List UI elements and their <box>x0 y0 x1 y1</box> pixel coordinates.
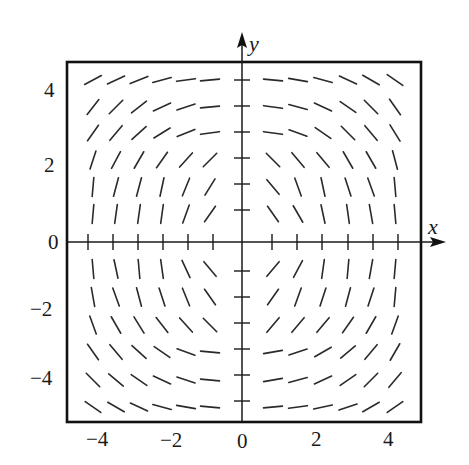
slope-segment-bottom-right <box>264 406 283 408</box>
slope-segment-top-right <box>317 153 329 168</box>
x-tick-label: 2 <box>311 427 322 451</box>
slope-segment-bottom-right <box>340 375 356 386</box>
slope-segment-bottom-right <box>365 345 377 360</box>
y-tick-label: −2 <box>30 297 52 321</box>
slope-segment-bottom-right <box>268 289 279 305</box>
slope-segment-top-right <box>267 180 279 195</box>
slope-segment-top-right <box>394 205 396 224</box>
slope-segment-bottom-right <box>289 406 308 409</box>
slope-segment-bottom-right <box>314 405 333 409</box>
slope-segment-top-left <box>132 101 147 113</box>
slope-segment-top-right <box>264 132 283 135</box>
y-tick-label: 4 <box>44 78 55 102</box>
slope-segment-top-left <box>201 132 220 135</box>
slope-segment-bottom-left <box>91 288 94 307</box>
slope-segment-top-right <box>394 178 396 197</box>
slope-segment-top-left <box>177 104 195 110</box>
slope-segment-top-left <box>88 125 99 141</box>
slope-segment-top-right <box>314 78 332 83</box>
slope-segment-bottom-left <box>153 405 171 410</box>
slope-segment-bottom-right <box>339 404 357 410</box>
slope-segment-bottom-left <box>161 260 164 279</box>
slope-segment-bottom-right <box>366 317 376 333</box>
slope-segment-bottom-right <box>322 260 325 279</box>
slope-segment-bottom-right <box>341 346 356 358</box>
slope-segment-bottom-left <box>153 376 170 384</box>
slope-segment-bottom-left <box>201 379 220 381</box>
slope-segment-top-left <box>130 76 148 83</box>
slope-segment-bottom-right <box>343 317 354 333</box>
slope-segment-bottom-right <box>346 288 351 306</box>
slope-segment-top-right <box>268 206 279 222</box>
slope-segment-top-left <box>201 79 220 81</box>
slope-segment-top-left <box>92 205 94 224</box>
slope-segment-bottom-right <box>387 402 403 413</box>
y-tick-label: 2 <box>44 153 55 177</box>
slope-segment-top-left <box>157 152 168 168</box>
slope-segment-bottom-left <box>132 346 146 359</box>
slope-segment-top-left <box>90 151 96 169</box>
slope-segment-bottom-right <box>264 350 283 353</box>
slope-segment-bottom-left <box>137 288 142 306</box>
slope-segment-top-right <box>363 75 379 85</box>
slope-segment-bottom-right <box>264 378 283 381</box>
slope-segment-bottom-right <box>369 260 372 279</box>
axis-ticks <box>88 80 398 401</box>
slope-segment-top-right <box>341 126 354 139</box>
slope-segment-bottom-left <box>109 374 124 386</box>
slope-segment-top-right <box>393 151 398 169</box>
slope-segment-top-right <box>264 79 283 81</box>
slope-field-figure: x y −4 −2 0 2 4 4 2 0 −2 −4 <box>0 0 469 465</box>
slope-segment-top-right <box>289 105 307 110</box>
slope-segment-bottom-right <box>320 288 326 306</box>
slope-segment-top-left <box>177 79 196 82</box>
slope-segment-top-right <box>266 153 279 166</box>
slope-segment-top-left <box>114 178 119 196</box>
slope-segment-bottom-right <box>389 373 401 388</box>
slope-segment-top-left <box>161 205 164 224</box>
slope-segment-top-left <box>201 106 220 108</box>
slope-segment-bottom-right <box>364 373 377 386</box>
slope-segment-bottom-right <box>267 262 279 277</box>
slope-segment-top-right <box>369 205 372 224</box>
slope-segment-top-right <box>295 178 302 196</box>
slope-segment-top-right <box>343 152 353 168</box>
slope-segment-top-right <box>264 106 283 109</box>
slope-segment-bottom-right <box>292 318 304 333</box>
y-tick-label: 0 <box>48 230 59 254</box>
slope-segment-top-left <box>109 100 122 113</box>
slope-segment-top-left <box>87 100 99 115</box>
slope-segment-bottom-left <box>114 260 118 279</box>
slope-segment-bottom-left <box>201 406 220 408</box>
x-tick-label: −2 <box>160 428 182 452</box>
slope-segment-top-right <box>390 99 401 115</box>
slope-segment-bottom-right <box>394 260 396 279</box>
slope-segment-bottom-left <box>111 317 121 333</box>
slope-segment-bottom-left <box>131 375 147 386</box>
slope-segment-bottom-right <box>363 402 379 412</box>
slope-segment-top-left <box>112 152 121 169</box>
slope-segment-top-right <box>289 130 307 137</box>
slope-segment-top-left <box>153 78 171 83</box>
slope-segment-bottom-left <box>203 318 216 331</box>
slope-segment-bottom-left <box>110 345 122 360</box>
slope-segment-bottom-left <box>130 403 147 411</box>
slope-segment-top-left <box>85 76 102 85</box>
slope-segment-bottom-left <box>205 289 216 305</box>
slope-segment-bottom-left <box>88 344 99 360</box>
slope-segment-bottom-left <box>201 351 220 353</box>
slope-segment-bottom-left <box>134 317 144 333</box>
slope-segment-top-right <box>292 153 304 168</box>
slope-segment-bottom-right <box>394 288 396 307</box>
slope-segment-top-right <box>364 100 377 113</box>
slope-segment-bottom-left <box>85 402 101 413</box>
slope-segment-top-right <box>321 178 325 197</box>
slope-segment-top-left <box>203 153 216 166</box>
x-tick-label: 4 <box>383 427 394 451</box>
slope-segment-bottom-right <box>317 318 329 333</box>
slope-segment-top-left <box>115 205 118 224</box>
slope-segment-bottom-left <box>156 318 168 333</box>
slope-segment-top-left <box>205 206 216 222</box>
slope-segment-top-left <box>180 153 193 167</box>
slope-segment-top-right <box>347 205 350 224</box>
